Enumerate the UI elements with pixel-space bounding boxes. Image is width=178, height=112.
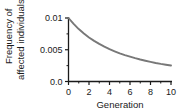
y-tick-label: 0.01 bbox=[45, 13, 63, 23]
x-tick-label: 4 bbox=[107, 87, 112, 97]
x-tick-label: 6 bbox=[127, 87, 132, 97]
x-tick-label: 2 bbox=[86, 87, 91, 97]
x-tick-label: 0 bbox=[66, 87, 71, 97]
y-tick-label: 0.005 bbox=[40, 45, 63, 55]
x-tick-label: 10 bbox=[166, 87, 176, 97]
y-tick-label: 0.0 bbox=[50, 77, 63, 87]
x-tick-label: 8 bbox=[148, 87, 153, 97]
y-axis-title-line2: affected individuals bbox=[15, 0, 26, 80]
chart-figure: 0.00.0050.01 0246810 Generation Frequenc… bbox=[0, 0, 178, 112]
x-axis-title: Generation bbox=[96, 99, 143, 110]
frequency-decay-line-chart: 0.00.0050.01 0246810 Generation Frequenc… bbox=[0, 0, 178, 112]
y-axis-title-line1: Frequency of bbox=[3, 8, 14, 64]
